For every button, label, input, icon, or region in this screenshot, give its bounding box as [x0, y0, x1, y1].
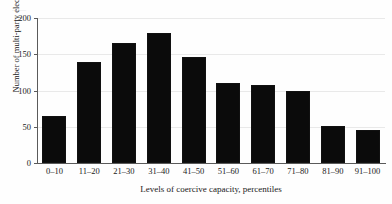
bar-slot	[211, 18, 246, 163]
bar	[42, 116, 66, 163]
y-tick-mark	[34, 163, 38, 164]
x-axis-line	[37, 163, 386, 164]
x-tick-label: 61–70	[246, 166, 281, 176]
x-tick-label: 0–10	[37, 166, 72, 176]
y-tick-label: 100	[18, 87, 31, 96]
y-tick-mark	[34, 91, 38, 92]
bar	[356, 130, 380, 163]
y-tick-label: 150	[18, 50, 31, 59]
bars-group	[37, 18, 385, 163]
bar-slot	[315, 18, 350, 163]
bar-slot	[37, 18, 72, 163]
x-tick-label: 41–50	[176, 166, 211, 176]
bar	[216, 83, 240, 163]
x-axis-tick-labels: 0–1011–2021–3031–4041–5051–6061–7071–808…	[37, 166, 385, 180]
y-tick-label: 200	[18, 14, 31, 23]
x-tick-label: 51–60	[211, 166, 246, 176]
bar	[286, 91, 310, 164]
x-tick-label: 21–30	[107, 166, 142, 176]
bar-slot	[246, 18, 281, 163]
bar	[251, 85, 275, 163]
bar-slot	[281, 18, 316, 163]
bar-slot	[141, 18, 176, 163]
x-tick-label: 31–40	[141, 166, 176, 176]
bar	[77, 62, 101, 164]
x-axis-title: Levels of coercive capacity, percentiles	[37, 184, 385, 195]
x-tick-label: 91–100	[350, 166, 385, 176]
bar	[147, 33, 171, 163]
y-tick-label: 50	[23, 123, 32, 132]
y-tick-mark	[34, 18, 38, 19]
x-tick-label: 81–90	[315, 166, 350, 176]
cropped-top-text-artifact: · ·	[62, 0, 182, 3]
y-tick-label: 0	[27, 159, 31, 168]
bar-slot	[176, 18, 211, 163]
bar-chart-figure: · · —— Number of multi-party elections 0…	[0, 0, 392, 204]
bar-slot	[350, 18, 385, 163]
plot-area: 050100150200	[37, 18, 385, 163]
y-tick-mark	[34, 127, 38, 128]
bar-slot	[72, 18, 107, 163]
bar	[112, 43, 136, 163]
bar	[321, 126, 345, 163]
y-tick-mark	[34, 54, 38, 55]
bar-slot	[107, 18, 142, 163]
x-tick-label: 11–20	[72, 166, 107, 176]
cropped-top-text-artifact-2: ——	[12, 6, 72, 13]
x-tick-label: 71–80	[281, 166, 316, 176]
bar	[182, 57, 206, 163]
